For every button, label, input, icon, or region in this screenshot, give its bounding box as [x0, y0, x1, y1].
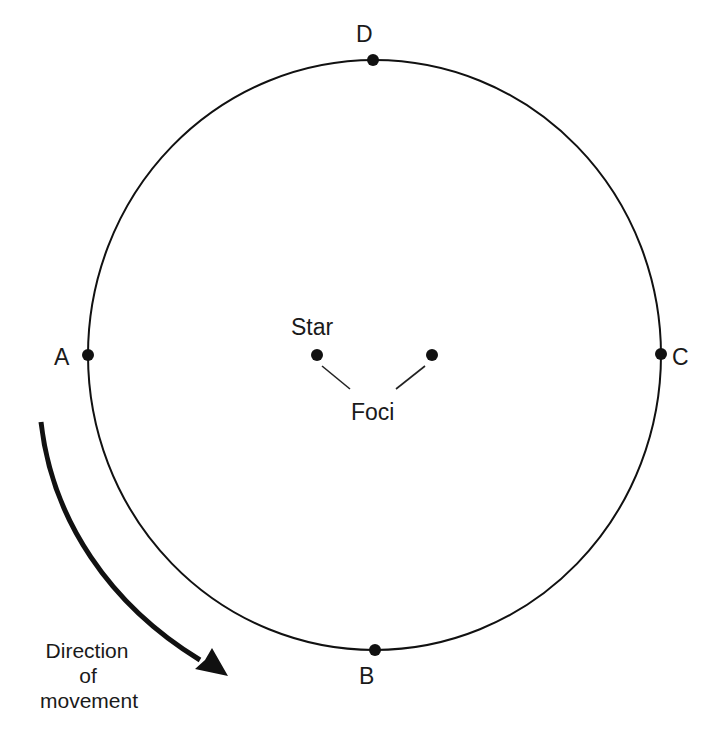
empty-focus-dot [426, 349, 438, 361]
point-c-marker [655, 348, 667, 360]
orbit-diagram: A B C D Star Foci Direction of movement [0, 0, 724, 745]
orbit-ellipse [88, 60, 661, 650]
foci-pointer-left [322, 366, 350, 389]
foci-label: Foci [351, 399, 394, 425]
direction-label-line3: movement [40, 689, 138, 712]
diagram-svg: A B C D Star Foci Direction of movement [0, 0, 724, 745]
point-c-label: C [672, 344, 689, 370]
point-a-marker [82, 349, 94, 361]
direction-label-line1: Direction [46, 639, 129, 662]
point-d-marker [367, 54, 379, 66]
direction-arrow [41, 422, 200, 660]
direction-arrowhead-icon [195, 648, 228, 676]
foci-pointer-right [396, 366, 425, 389]
direction-label-line2: of [79, 664, 97, 687]
star-label: Star [291, 314, 334, 340]
point-b-label: B [359, 663, 374, 689]
point-b-marker [369, 644, 381, 656]
point-d-label: D [356, 21, 373, 47]
star-focus-dot [311, 349, 323, 361]
point-a-label: A [54, 344, 70, 370]
